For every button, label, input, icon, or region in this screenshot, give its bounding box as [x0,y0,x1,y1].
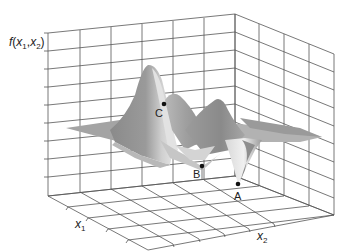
marker-c [162,102,167,107]
point-label-b: B [193,168,200,180]
point-label-c: C [155,107,163,119]
marker-b [200,164,205,169]
x2-axis-label: x2 [257,230,267,245]
x1-axis-label: x1 [75,218,85,233]
x1-label-sub: 1 [81,224,85,233]
z-axis-label: f(x1,x2) [9,36,45,51]
surface-plot [0,0,349,252]
floor-grid [48,176,334,250]
z-label-close: ) [41,35,45,49]
x2-label-sub: 2 [263,236,267,245]
point-label-a: A [234,190,241,202]
marker-a [236,182,241,187]
surface-valley-a [225,138,262,184]
right-wall-grid [235,14,334,215]
